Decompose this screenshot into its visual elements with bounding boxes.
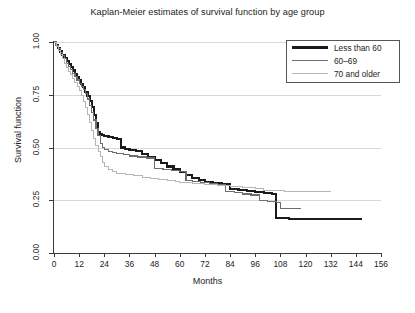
legend-swatch bbox=[292, 46, 328, 48]
survival-curve bbox=[54, 42, 301, 209]
legend-swatch bbox=[292, 60, 328, 61]
legend-label: 70 and older bbox=[334, 69, 380, 79]
legend-label: Less than 60 bbox=[334, 43, 382, 53]
legend-item: Less than 60 bbox=[287, 41, 399, 54]
legend-item: 70 and older bbox=[287, 67, 399, 80]
legend-swatch bbox=[292, 73, 328, 74]
legend-label: 60–69 bbox=[334, 56, 357, 66]
kaplan-meier-figure: Kaplan-Meier estimates of survival funct… bbox=[0, 0, 415, 313]
legend: Less than 6060–6970 and older bbox=[286, 40, 400, 83]
legend-item: 60–69 bbox=[287, 54, 399, 67]
